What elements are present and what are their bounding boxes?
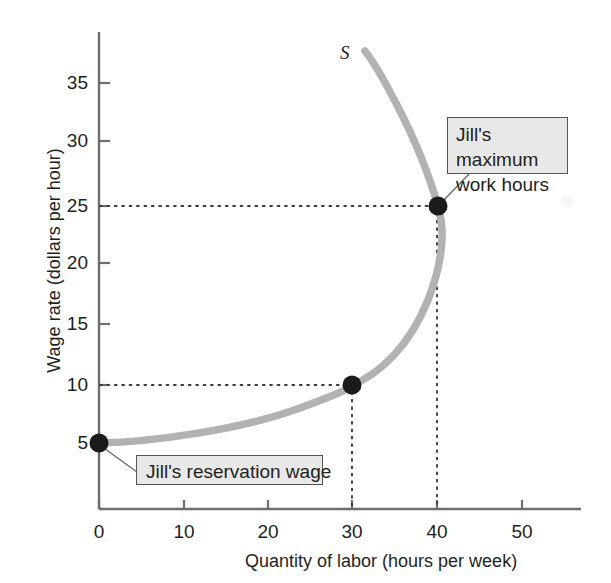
leader-reservation-wage xyxy=(101,446,137,472)
point-reservation-wage xyxy=(90,434,109,453)
point-midpoint xyxy=(343,376,362,395)
plot-canvas xyxy=(0,0,611,583)
annotation-reservation-wage-text: Jill's reservation wage xyxy=(146,461,331,482)
x-tick-label-20: 20 xyxy=(257,521,278,543)
labor-supply-figure: 35 30 25 20 15 10 5 0 10 20 30 40 50 Wag… xyxy=(0,0,611,583)
annotation-max-work-hours-line1: Jill's maximum xyxy=(456,122,559,172)
x-axis-title: Quantity of labor (hours per week) xyxy=(245,551,517,572)
annotation-max-work-hours-line2: work hours xyxy=(456,172,559,197)
y-tick-label-5: 5 xyxy=(48,432,88,454)
y-axis-ticks xyxy=(99,83,110,443)
x-tick-label-30: 30 xyxy=(341,521,362,543)
y-tick-label-35: 35 xyxy=(48,72,88,94)
annotation-reservation-wage: Jill's reservation wage xyxy=(136,455,323,485)
supply-curve-label: S xyxy=(340,42,350,64)
annotation-max-work-hours: Jill's maximum work hours xyxy=(447,117,568,174)
x-tick-label-40: 40 xyxy=(426,521,447,543)
data-points xyxy=(90,197,448,453)
x-tick-label-0: 0 xyxy=(94,521,105,543)
point-max-work-hours xyxy=(429,197,448,216)
x-tick-label-10: 10 xyxy=(173,521,194,543)
y-axis-title: Wage rate (dollars per hour) xyxy=(44,111,65,411)
x-tick-label-50: 50 xyxy=(511,521,532,543)
x-axis-ticks xyxy=(99,500,522,509)
